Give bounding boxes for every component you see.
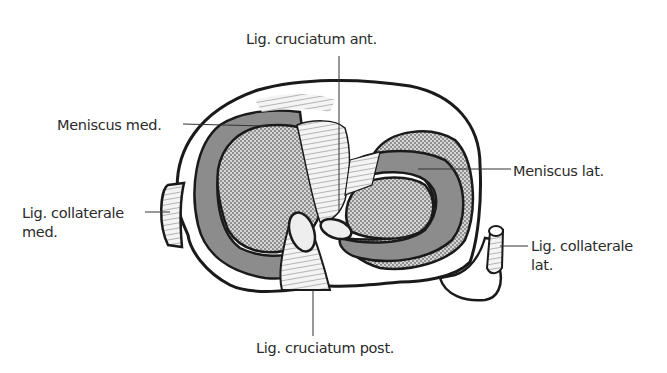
label-lig-collaterale-lat: Lig. collaterale lat.	[531, 237, 633, 275]
label-lig-cruciatum-ant: Lig. cruciatum ant.	[246, 30, 377, 49]
label-meniscus-med: Meniscus med.	[57, 116, 162, 135]
anatomy-figure: Lig. cruciatum ant. Meniscus med. Menisc…	[0, 0, 667, 373]
label-line: med.	[22, 223, 124, 242]
label-line: Lig. collaterale	[22, 204, 124, 223]
label-line: Lig. collaterale	[531, 237, 633, 256]
lcl-stump	[489, 226, 503, 236]
label-line: lat.	[531, 256, 633, 275]
label-lig-collaterale-med: Lig. collaterale med.	[22, 204, 124, 242]
tibial-plateau-illustration	[0, 0, 667, 373]
label-meniscus-lat: Meniscus lat.	[513, 162, 604, 181]
label-lig-cruciatum-post: Lig. cruciatum post.	[256, 339, 394, 358]
medial-collateral-ligament	[161, 183, 184, 247]
